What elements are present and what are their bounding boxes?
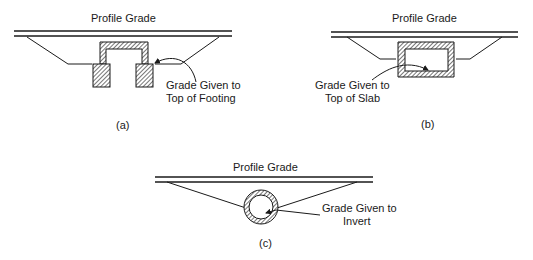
box-culvert (398, 42, 454, 77)
panel-a: Profile Grade Grade Given to Top of Foot… (14, 12, 241, 131)
panel-b: Profile Grade Grade Given to Top of Slab… (315, 12, 518, 130)
culvert-frame (100, 42, 148, 64)
profile-grade-label: Profile Grade (91, 12, 156, 24)
right-footing (136, 64, 153, 87)
panel-c: Profile Grade Grade Given to Invert (c) (155, 161, 397, 249)
callout-line-1: Grade Given to (322, 202, 397, 214)
callout-line-2: Top of Slab (325, 92, 380, 104)
profile-grade-lines (14, 31, 232, 36)
profile-grade-lines (155, 177, 373, 182)
callout-line-2: Top of Footing (166, 92, 236, 104)
callout-line-1: Grade Given to (315, 79, 390, 91)
panel-caption: (a) (116, 119, 129, 131)
culvert-grade-diagram: Profile Grade Grade Given to Top of Foot… (0, 0, 533, 260)
panel-caption: (c) (259, 237, 272, 249)
excavation-outline (27, 37, 219, 64)
pipe-culvert (244, 190, 278, 224)
profile-grade-lines (331, 32, 518, 37)
callout-line-1: Grade Given to (166, 79, 241, 91)
panel-caption: (b) (421, 118, 434, 130)
callout-line-2: Invert (343, 215, 371, 227)
profile-grade-label: Profile Grade (233, 161, 298, 173)
left-footing (93, 64, 110, 87)
profile-grade-label: Profile Grade (392, 12, 457, 24)
